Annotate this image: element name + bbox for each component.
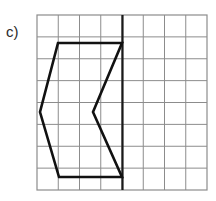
arrow-polygon-shape [40,43,122,177]
figure-container: c) [0,0,216,201]
grid-figure-svg [0,0,216,201]
arrow-polygon-outline [40,43,122,177]
